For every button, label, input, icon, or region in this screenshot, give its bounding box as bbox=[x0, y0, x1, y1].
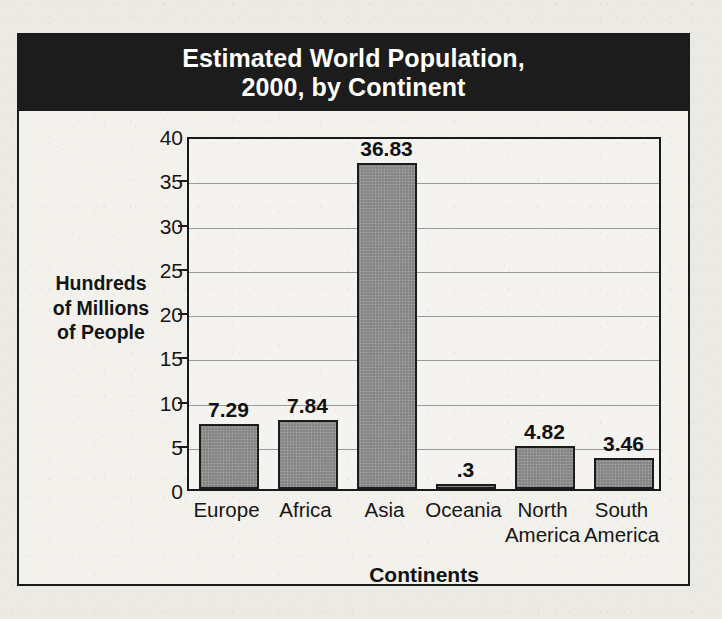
y-tick-mark bbox=[178, 269, 187, 271]
x-category-label-line: America bbox=[499, 522, 587, 547]
bar-slot: 36.83 bbox=[357, 139, 417, 489]
bar bbox=[357, 163, 417, 489]
bar-slot: 3.46 bbox=[594, 139, 654, 489]
y-tick-mark bbox=[178, 357, 187, 359]
y-tick-label: 15 bbox=[137, 348, 183, 369]
x-category-label: Oceania bbox=[420, 497, 508, 522]
bar bbox=[278, 420, 338, 489]
y-tick-label: 30 bbox=[137, 215, 183, 236]
x-category-label-line: Oceania bbox=[420, 497, 508, 522]
chart-title-line-1: Estimated World Population, bbox=[182, 44, 525, 73]
y-tick-label: 0 bbox=[137, 481, 183, 502]
y-tick-mark bbox=[178, 313, 187, 315]
plot-area: 7.297.8436.83.34.823.46 bbox=[187, 137, 661, 491]
y-tick-label: 25 bbox=[137, 259, 183, 280]
y-tick-label: 20 bbox=[137, 304, 183, 325]
bar bbox=[436, 484, 496, 489]
bar-slot: .3 bbox=[436, 139, 496, 489]
bar-slot: 7.84 bbox=[278, 139, 338, 489]
chart-figure: Estimated World Population,2000, by Cont… bbox=[17, 33, 690, 586]
bars-layer: 7.297.8436.83.34.823.46 bbox=[189, 139, 659, 489]
x-category-label: SouthAmerica bbox=[578, 497, 666, 547]
x-category-label-line: Asia bbox=[341, 497, 429, 522]
x-category-label: NorthAmerica bbox=[499, 497, 587, 547]
y-tick-mark bbox=[178, 446, 187, 448]
bar-value-label: 3.46 bbox=[578, 433, 662, 454]
bar bbox=[199, 424, 259, 489]
bar bbox=[515, 446, 575, 489]
bar-slot: 7.29 bbox=[199, 139, 259, 489]
x-category-label-line: Africa bbox=[262, 497, 350, 522]
x-category-label-line: North bbox=[499, 497, 587, 522]
bar bbox=[594, 458, 654, 489]
chart-title-line-2: 2000, by Continent bbox=[241, 73, 465, 102]
chart-body: Hundredsof Millionsof People 7.297.8436.… bbox=[19, 111, 688, 584]
y-tick-label: 35 bbox=[137, 171, 183, 192]
y-tick-mark bbox=[178, 180, 187, 182]
plot-wrapper: 7.297.8436.83.34.823.46 0510152025303540 bbox=[187, 137, 661, 491]
x-axis-category-labels: EuropeAfricaAsiaOceaniaNorthAmericaSouth… bbox=[187, 497, 661, 559]
y-tick-label: 5 bbox=[137, 436, 183, 457]
y-tick-mark bbox=[178, 402, 187, 404]
chart-title-band: Estimated World Population,2000, by Cont… bbox=[19, 35, 688, 111]
x-category-label-line: Europe bbox=[183, 497, 271, 522]
y-tick-mark bbox=[178, 225, 187, 227]
x-category-label-line: America bbox=[578, 522, 666, 547]
x-axis-label: Continents bbox=[187, 563, 661, 587]
x-category-label: Asia bbox=[341, 497, 429, 522]
bar-value-label: 36.83 bbox=[341, 138, 433, 159]
x-category-label: Africa bbox=[262, 497, 350, 522]
x-category-label-line: South bbox=[578, 497, 666, 522]
bar-slot: 4.82 bbox=[515, 139, 575, 489]
x-category-label: Europe bbox=[183, 497, 271, 522]
y-tick-label: 40 bbox=[137, 127, 183, 148]
bar-value-label: .3 bbox=[420, 459, 512, 480]
y-tick-label: 10 bbox=[137, 392, 183, 413]
bar-value-label: 7.84 bbox=[262, 395, 354, 416]
